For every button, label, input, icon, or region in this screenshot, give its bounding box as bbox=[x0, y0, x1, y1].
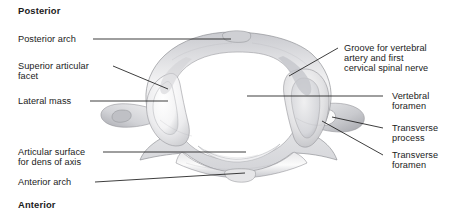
anterior-tubercle bbox=[225, 169, 256, 183]
vertebral-foramen-opening bbox=[170, 52, 301, 160]
label-superior-articular-facet-line2: facet bbox=[18, 71, 38, 82]
label-posterior-arch: Posterior arch bbox=[18, 34, 76, 45]
label-transverse-process-line1: Transverse bbox=[392, 123, 438, 134]
label-superior-articular-facet-line1: Superior articular bbox=[18, 61, 89, 72]
label-anterior-arch: Anterior arch bbox=[18, 177, 71, 188]
label-groove-vertebral-artery-line1: Groove for vertebral bbox=[344, 43, 427, 54]
label-transverse-foramen-line1: Transverse bbox=[392, 150, 438, 161]
label-lateral-mass: Lateral mass bbox=[18, 96, 71, 107]
label-articular-surface-dens-line2: for dens of axis bbox=[18, 157, 81, 168]
label-transverse-foramen-line2: foramen bbox=[392, 160, 426, 171]
label-transverse-process-line2: process bbox=[392, 133, 425, 144]
label-groove-vertebral-artery-line2: artery and first bbox=[344, 53, 404, 64]
anatomy-figure: Posterior Posterior arch Superior articu… bbox=[0, 0, 470, 221]
label-vertebral-foramen-line2: foramen bbox=[392, 101, 426, 112]
left-transverse-foramen bbox=[112, 110, 131, 122]
orientation-label-anterior: Anterior bbox=[18, 200, 56, 211]
orientation-label-posterior: Posterior bbox=[18, 6, 61, 17]
label-articular-surface-dens-line1: Articular surface bbox=[18, 147, 85, 158]
bone-mass bbox=[101, 31, 364, 182]
label-vertebral-foramen-line1: Vertebral bbox=[392, 91, 429, 102]
label-groove-vertebral-artery-line3: cervical spinal nerve bbox=[344, 63, 428, 74]
posterior-tubercle bbox=[223, 31, 251, 43]
